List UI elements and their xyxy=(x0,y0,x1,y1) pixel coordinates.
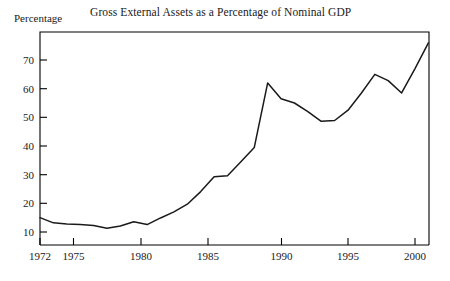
y-tick-label-30: 30 xyxy=(23,169,35,181)
x-tick-label-1995: 1995 xyxy=(337,250,360,262)
y-tick-label-10: 10 xyxy=(23,226,35,238)
data-series-line xyxy=(40,43,428,228)
chart-plot-area: 70 60 50 40 30 20 10 1972 1975 1980 1985… xyxy=(0,0,450,281)
y-tick-label-70: 70 xyxy=(23,54,35,66)
x-axis-tick-labels: 1972 1975 1980 1985 1990 1995 2000 xyxy=(29,250,427,262)
chart-figure: Percentage Gross External Assets as a Pe… xyxy=(0,0,450,281)
x-tick-label-1980: 1980 xyxy=(130,250,153,262)
y-tick-label-20: 20 xyxy=(23,197,35,209)
y-axis-ticks xyxy=(40,60,47,232)
x-tick-label-2000: 2000 xyxy=(404,250,427,262)
y-tick-label-60: 60 xyxy=(23,83,35,95)
x-tick-label-1972: 1972 xyxy=(29,250,51,262)
plot-frame xyxy=(40,32,429,245)
y-axis-tick-labels: 70 60 50 40 30 20 10 xyxy=(23,54,35,238)
x-tick-label-1990: 1990 xyxy=(271,250,294,262)
x-axis-ticks xyxy=(40,238,415,245)
x-tick-label-1985: 1985 xyxy=(197,250,220,262)
x-tick-label-1975: 1975 xyxy=(63,250,86,262)
y-tick-label-40: 40 xyxy=(23,140,35,152)
y-tick-label-50: 50 xyxy=(23,111,35,123)
